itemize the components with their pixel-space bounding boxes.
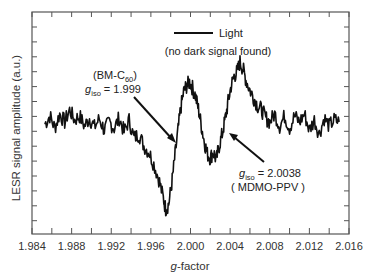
legend: Light (no dark signal found) [165, 27, 271, 57]
annotation-arrow-mdmo-ppv [234, 137, 264, 162]
x-tick-label: 2.000 [177, 240, 205, 252]
annotation-arrow-bm-c60 [134, 97, 172, 139]
annotation-mdmo-ppv-giso: giso = 2.0038 [239, 167, 301, 182]
legend-note: (no dark signal found) [165, 45, 271, 57]
x-tick-label: 2.004 [216, 240, 244, 252]
lesr-chart: 1.9841.9881.9921.9962.0002.0042.0082.012… [0, 0, 372, 279]
legend-label-light: Light [219, 27, 243, 39]
annotation-mdmo-ppv: giso = 2.0038 ( MDMO-PPV ) [229, 133, 305, 193]
x-tick-label: 1.988 [58, 240, 86, 252]
x-tick-label: 2.008 [256, 240, 284, 252]
annotation-bm-c60-label: (BM-C60) [93, 69, 137, 84]
x-tick-label: 1.996 [137, 240, 165, 252]
x-tick-labels: 1.9841.9881.9921.9962.0002.0042.0082.012… [18, 240, 363, 252]
x-tick-label: 1.992 [97, 240, 125, 252]
x-tick-label: 2.012 [296, 240, 324, 252]
annotation-mdmo-ppv-label: ( MDMO-PPV ) [231, 181, 305, 193]
annotation-bm-c60-giso: giso = 1.999 [85, 83, 141, 98]
x-tick-label: 1.984 [18, 240, 46, 252]
x-tick-label: 2.016 [335, 240, 363, 252]
x-axis-label: g-factor [171, 260, 210, 272]
y-axis-label: LESR signal amplitude (a.u.) [10, 55, 22, 202]
